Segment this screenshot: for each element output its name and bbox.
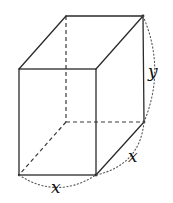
hidden-edges — [19, 16, 144, 175]
height-label: y — [147, 61, 158, 81]
top-edge-right-depth — [96, 16, 143, 69]
prism-diagram: y x x — [0, 0, 173, 203]
dimension-labels: y x x — [51, 61, 158, 197]
right-edge-back-vertical — [143, 16, 144, 122]
corner-dots — [18, 15, 146, 177]
depth-label: x — [128, 146, 138, 166]
hidden-edge-bottom-left-depth — [19, 122, 66, 175]
width-label: x — [51, 177, 61, 197]
top-edge-left-depth — [19, 16, 66, 69]
front-face — [19, 69, 96, 175]
visible-edges — [19, 16, 144, 175]
